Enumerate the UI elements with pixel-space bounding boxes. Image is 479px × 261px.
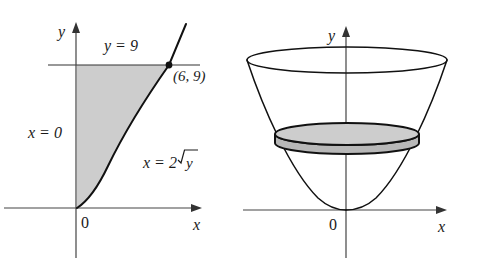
x-axis-label-left: x bbox=[192, 216, 200, 233]
origin-label-left: 0 bbox=[81, 214, 89, 231]
top-rim-ellipse bbox=[247, 47, 447, 73]
solid-of-revolution-panel: y x 0 bbox=[243, 26, 447, 258]
left-boundary-label: x = 0 bbox=[27, 124, 62, 141]
calculus-figure-svg: y x 0 y = 9 x = 0 (6, 9) x = 2 y bbox=[0, 0, 479, 261]
origin-label-right: 0 bbox=[329, 216, 337, 233]
y-axis-label-right: y bbox=[326, 27, 336, 45]
disk-top-face bbox=[275, 123, 419, 145]
y-axis-label-left: y bbox=[56, 23, 66, 41]
y-axis-arrow-right bbox=[342, 26, 350, 37]
curve-equation-prefix: x = 2 bbox=[142, 154, 177, 171]
x-axis-arrow-right bbox=[436, 206, 447, 214]
plane-region-panel: y x 0 y = 9 x = 0 (6, 9) x = 2 y bbox=[4, 22, 206, 258]
curve-equation-label: x = 2 y bbox=[142, 150, 198, 171]
intersection-point-dot bbox=[166, 62, 173, 69]
x-axis-label-right: x bbox=[437, 218, 445, 235]
y-axis-arrow-left bbox=[72, 22, 80, 33]
top-boundary-label: y = 9 bbox=[102, 37, 138, 55]
intersection-point-label: (6, 9) bbox=[173, 68, 206, 85]
figure-root: y x 0 y = 9 x = 0 (6, 9) x = 2 y bbox=[0, 0, 479, 261]
x-axis-arrow-left bbox=[191, 204, 202, 212]
cross-section-disk bbox=[275, 123, 419, 154]
curve-equation-radicand: y bbox=[184, 155, 193, 171]
